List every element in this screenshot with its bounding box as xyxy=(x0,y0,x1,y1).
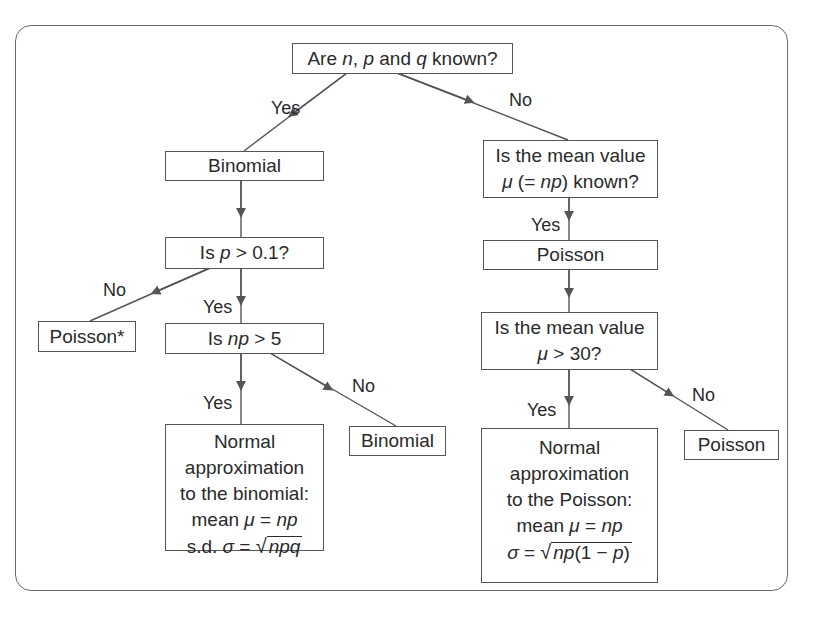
text-fragment: Are xyxy=(307,48,342,69)
node-label: Binomial xyxy=(208,153,281,179)
node-poisson-star: Poisson* xyxy=(38,321,136,352)
symbol-mu: μ xyxy=(502,171,512,192)
edge-label-np-check-no: No xyxy=(352,376,375,397)
text-fragment: ) xyxy=(624,542,630,563)
node-line: to the Poisson: xyxy=(507,487,633,513)
var-q: q xyxy=(416,48,427,69)
connector-lines xyxy=(0,0,814,619)
sqrt-icon: √ xyxy=(540,541,551,563)
edge-label-p-check-yes: Yes xyxy=(203,297,232,318)
node-p-check: Is p > 0.1? xyxy=(165,237,324,269)
node-label: Binomial xyxy=(361,428,434,454)
node-line-sd: s.d. σ = √npq xyxy=(187,533,303,560)
text-fragment: = xyxy=(255,509,277,530)
root-question-text: Are n, p and q known? xyxy=(307,46,497,72)
symbol-mu: μ xyxy=(569,515,579,536)
text-fragment: ) known? xyxy=(562,171,639,192)
text-fragment: (1 − xyxy=(574,542,613,563)
var-np: np xyxy=(553,542,574,563)
node-poisson-bottom: Poisson xyxy=(684,430,779,460)
node-line: approximation xyxy=(510,461,629,487)
text-fragment: known? xyxy=(427,48,498,69)
var-n: n xyxy=(342,48,353,69)
text-fragment: > 0.1? xyxy=(231,242,290,263)
edge-label-root-yes: Yes xyxy=(271,98,300,119)
node-line: μ (= np) known? xyxy=(502,169,639,195)
node-np-check: Is np > 5 xyxy=(165,323,324,354)
text-fragment: and xyxy=(374,48,416,69)
node-label: Poisson* xyxy=(50,324,125,350)
node-line: Normal xyxy=(539,435,600,461)
text-fragment: = xyxy=(580,515,602,536)
symbol-sigma: σ xyxy=(507,542,518,563)
edge-label-root-no: No xyxy=(509,90,532,111)
node-line-sd: σ = √np(1 − p) xyxy=(507,539,632,566)
node-mean-gt30: Is the mean value μ > 30? xyxy=(481,312,658,370)
node-line: μ > 30? xyxy=(538,341,602,367)
text-fragment: Is xyxy=(208,328,228,349)
var-np: np xyxy=(601,515,622,536)
node-binomial-bottom: Binomial xyxy=(349,426,446,456)
text-fragment: = xyxy=(519,542,541,563)
var-p: p xyxy=(613,542,624,563)
node-label: Poisson xyxy=(698,432,766,458)
symbol-sigma: σ xyxy=(223,536,234,557)
node-line: Is the mean value xyxy=(495,315,645,341)
edge-label-mean-gt30-no: No xyxy=(692,385,715,406)
text-fragment: , xyxy=(353,48,364,69)
text-fragment: > 30? xyxy=(548,343,601,364)
edge-label-np-check-yes: Yes xyxy=(203,393,232,414)
text-fragment: mean xyxy=(516,515,569,536)
text-fragment: (= xyxy=(513,171,541,192)
node-binomial-top: Binomial xyxy=(165,151,324,181)
var-p: p xyxy=(220,242,231,263)
text-fragment: > 5 xyxy=(249,328,281,349)
text-fragment: s.d. xyxy=(187,536,223,557)
symbol-mu: μ xyxy=(538,343,548,364)
node-normal-approx-binomial: Normal approximation to the binomial: me… xyxy=(165,424,324,551)
text-fragment: = xyxy=(234,536,256,557)
node-line-mean: mean μ = np xyxy=(516,513,622,539)
node-line: Is the mean value xyxy=(496,143,646,169)
var-np: np xyxy=(541,171,562,192)
node-normal-approx-poisson: Normal approximation to the Poisson: mea… xyxy=(481,428,658,583)
node-mean-known: Is the mean value μ (= np) known? xyxy=(483,140,658,198)
var-np: np xyxy=(276,509,297,530)
node-line: to the binomial: xyxy=(180,481,309,507)
node-line: Is np > 5 xyxy=(208,326,281,352)
node-line: Is p > 0.1? xyxy=(200,240,289,266)
node-poisson-mid: Poisson xyxy=(483,240,658,270)
text-fragment: mean xyxy=(191,509,244,530)
symbol-mu: μ xyxy=(244,509,254,530)
edge-label-p-check-no: No xyxy=(103,280,126,301)
node-line: Normal xyxy=(214,429,275,455)
var-np: np xyxy=(228,328,249,349)
sqrt-icon: √ xyxy=(256,535,267,557)
edge-label-mean-gt30-yes: Yes xyxy=(527,400,556,421)
node-root-question: Are n, p and q known? xyxy=(292,43,513,74)
edge-label-mean-known-yes: Yes xyxy=(531,215,560,236)
text-fragment: Is xyxy=(200,242,220,263)
node-line-mean: mean μ = np xyxy=(191,507,297,533)
node-label: Poisson xyxy=(537,242,605,268)
node-line: approximation xyxy=(185,455,304,481)
var-p: p xyxy=(363,48,374,69)
radicand: npq xyxy=(267,536,303,557)
radicand: np(1 − p) xyxy=(551,542,632,563)
